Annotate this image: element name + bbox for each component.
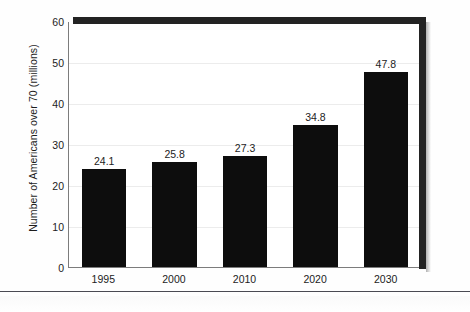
x-tick-label: 1995 [68,270,139,288]
bar-slot: 25.8 [139,22,209,267]
plot-area: 24.1 25.8 27.3 34.8 47.8 [68,22,421,268]
bar-value-label: 34.8 [305,111,325,123]
bar-value-label: 47.8 [376,58,396,70]
y-axis-tick-labels: 60 50 40 30 20 10 0 [36,0,64,312]
x-tick-label: 2030 [350,270,421,288]
page-scan-artifact [0,296,470,312]
chart-frame-shadow [426,22,431,272]
y-tick-label: 50 [36,57,64,69]
bar-value-label: 25.8 [164,148,184,160]
bar-slot: 24.1 [69,22,139,267]
y-tick-label: 10 [36,221,64,233]
chart-frame-top [73,17,425,24]
bar-chart-figure: Number of Americans over 70 (millions) 6… [0,0,470,312]
x-axis-tick-labels: 1995 2000 2010 2020 2030 [68,270,421,288]
bar-series: 24.1 25.8 27.3 34.8 47.8 [69,22,421,267]
page-divider-rule [0,291,470,292]
bar[interactable]: 24.1 [82,169,126,267]
bar[interactable]: 25.8 [152,162,196,267]
bar-value-label: 27.3 [235,142,255,154]
y-tick-label: 60 [36,16,64,28]
y-tick-label: 0 [36,262,64,274]
bar-slot: 47.8 [351,22,421,267]
x-tick-label: 2010 [209,270,280,288]
x-tick-label: 2020 [280,270,351,288]
y-tick-label: 20 [36,180,64,192]
bar[interactable]: 34.8 [293,125,337,267]
bar-slot: 34.8 [280,22,350,267]
bar-value-label: 24.1 [94,155,114,167]
bar[interactable]: 27.3 [223,156,267,267]
y-tick-label: 40 [36,98,64,110]
x-tick-label: 2000 [139,270,210,288]
bar-slot: 27.3 [210,22,280,267]
bar[interactable]: 47.8 [364,72,408,267]
y-tick-label: 30 [36,139,64,151]
